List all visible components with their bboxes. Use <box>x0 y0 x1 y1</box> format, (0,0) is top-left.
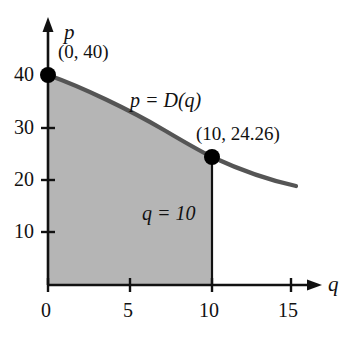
vertical-line-label: q = 10 <box>142 203 196 223</box>
plot-canvas <box>0 0 351 338</box>
y-tick-label-10: 10 <box>14 221 34 241</box>
y-tick-label-20: 20 <box>14 169 34 189</box>
x-tick-label-15: 15 <box>278 300 298 320</box>
y-tick-label-30: 30 <box>14 117 34 137</box>
y-tick-label-40: 40 <box>14 64 34 84</box>
x-tick-label-5: 5 <box>123 300 133 320</box>
point-label-origin: (0, 40) <box>58 42 109 61</box>
x-tick-label-0: 0 <box>41 300 51 320</box>
y-axis-arrow-icon <box>43 17 54 32</box>
curve-equation-label: p = D(q) <box>130 90 201 110</box>
demand-curve-figure: p q 40 30 20 10 0 5 10 15 (0, 40) (10, 2… <box>0 0 351 338</box>
y-axis-name: p <box>64 22 75 43</box>
data-point-10-2426 <box>204 149 220 165</box>
x-tick-label-10: 10 <box>199 300 219 320</box>
point-label-intersection: (10, 24.26) <box>196 124 280 143</box>
x-axis-arrow-icon <box>307 280 322 291</box>
x-axis-name: q <box>328 274 339 295</box>
data-point-0-40 <box>40 67 56 83</box>
